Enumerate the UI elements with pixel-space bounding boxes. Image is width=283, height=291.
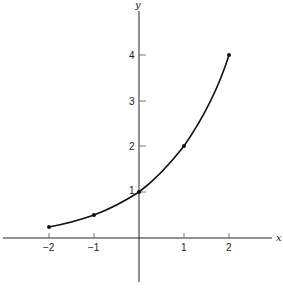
x-axis-label: x xyxy=(276,232,282,243)
y-ticks xyxy=(139,55,146,192)
x-tick-label: −2 xyxy=(43,242,55,253)
y-tick-label: 3 xyxy=(129,96,135,107)
y-tick-label: 4 xyxy=(129,50,135,61)
x-tick-label: −1 xyxy=(88,242,100,253)
exponential-graph: x y −2 −1 1 2 1 2 3 4 xyxy=(0,0,283,291)
x-tick-label: 1 xyxy=(181,242,187,253)
x-tick-label: 2 xyxy=(226,242,232,253)
y-axis-label: y xyxy=(134,0,141,10)
y-tick-label: 2 xyxy=(129,141,135,152)
